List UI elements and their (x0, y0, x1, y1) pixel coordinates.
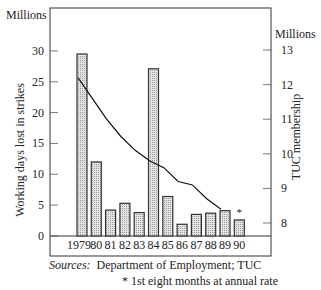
x-label: 86 (176, 238, 188, 252)
left-tick-label: 30 (32, 44, 44, 58)
sources-note: Sources: Department of Employment; TUC (49, 258, 261, 273)
footnote: * 1st eight months at annual rate (122, 274, 278, 289)
x-label: 82 (119, 238, 131, 252)
x-label: 88 (205, 238, 217, 252)
sources-text: Department of Employment; TUC (97, 258, 262, 272)
annotation-asterisk: * (237, 206, 243, 218)
x-label: 87 (190, 238, 202, 252)
right-axis-title: TUC membership (289, 94, 303, 180)
x-label: 89 (219, 238, 231, 252)
right-tick-label: 13 (281, 43, 293, 57)
left-tick-label: 25 (32, 75, 44, 89)
right-tick-label: 9 (281, 181, 287, 195)
bar-1979 (77, 54, 87, 236)
left-axis-ticks: 051015202530 (32, 44, 58, 243)
x-label: 84 (148, 238, 160, 252)
bar-89 (220, 211, 230, 236)
bar-85 (163, 197, 173, 236)
left-tick-label: 5 (38, 198, 44, 212)
x-label: 90 (233, 238, 245, 252)
x-label: 80 (90, 238, 102, 252)
x-label: 85 (162, 238, 174, 252)
bar-81 (106, 210, 116, 236)
x-label: 83 (133, 238, 145, 252)
bar-87 (191, 214, 201, 236)
right-axis-unit: Millions (275, 27, 316, 41)
x-axis-labels: 19798081828384858687888990 (67, 238, 245, 252)
bar-88 (206, 213, 216, 236)
x-label: 1979 (67, 238, 91, 252)
left-tick-label: 15 (32, 136, 44, 150)
bar-86 (177, 224, 187, 236)
strike-bars: * (77, 54, 244, 236)
bar-80 (91, 162, 101, 236)
left-tick-label: 10 (32, 167, 44, 181)
strikes-vs-tuc-chart: 051015202530 8910111213 * 19798081828384… (0, 0, 321, 290)
x-label: 81 (105, 238, 117, 252)
bar-82 (120, 203, 130, 236)
left-axis-unit: Millions (6, 8, 47, 22)
bar-84 (149, 69, 159, 236)
bar-90 (234, 220, 244, 236)
left-tick-label: 20 (32, 106, 44, 120)
right-tick-label: 12 (281, 78, 293, 92)
sources-prefix: Sources: (49, 258, 91, 272)
left-axis-title: Working days lost in strikes (13, 83, 27, 217)
right-tick-label: 8 (281, 216, 287, 230)
left-tick-label: 0 (38, 229, 44, 243)
bar-83 (134, 213, 144, 236)
